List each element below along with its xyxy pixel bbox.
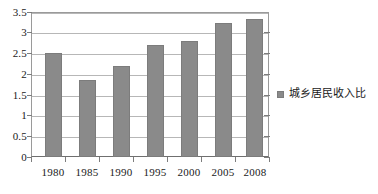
x-tick-label-2005: 2005 bbox=[212, 166, 235, 178]
y-tick-mark-right-1-5 bbox=[264, 95, 270, 96]
bars-layer bbox=[31, 12, 269, 157]
bar-2000[interactable] bbox=[181, 41, 198, 157]
x-tick-label-1995: 1995 bbox=[144, 166, 167, 178]
y-tick-mark-right-2 bbox=[264, 74, 270, 75]
x-tick-mark-5 bbox=[201, 157, 202, 162]
y-tick-mark-2-5 bbox=[27, 53, 32, 54]
x-tick-mark-2 bbox=[99, 157, 100, 162]
y-tick-label-0: 0 bbox=[0, 152, 27, 163]
x-tick-label-2000: 2000 bbox=[178, 166, 201, 178]
y-tick-label-2: 2 bbox=[0, 69, 27, 80]
legend-item-label: 城乡居民收入比 bbox=[289, 88, 366, 100]
y-tick-label-3: 3 bbox=[0, 27, 27, 38]
y-tick-label-2-5: 2.5 bbox=[0, 48, 27, 59]
bar-1995[interactable] bbox=[147, 45, 164, 157]
y-tick-label-3-5: 3.5 bbox=[0, 7, 27, 18]
bar-chart: 3.5 3 2.5 2 1.5 1 0.5 0 1980 1985 1990 1… bbox=[0, 0, 378, 194]
x-tick-mark-3 bbox=[133, 157, 134, 162]
x-tick-mark-4 bbox=[167, 157, 168, 162]
y-tick-label-1-5: 1.5 bbox=[0, 90, 27, 101]
x-tick-label-1990: 1990 bbox=[110, 166, 133, 178]
y-tick-mark-0-5 bbox=[27, 136, 32, 137]
y-tick-label-1: 1 bbox=[0, 110, 27, 121]
y-tick-mark-right-1 bbox=[264, 115, 270, 116]
bar-1980[interactable] bbox=[45, 53, 62, 157]
x-tick-mark-1 bbox=[65, 157, 66, 162]
x-tick-label-2008: 2008 bbox=[244, 166, 267, 178]
y-tick-mark-1-5 bbox=[27, 95, 32, 96]
y-tick-mark-3 bbox=[27, 32, 32, 33]
bar-1985[interactable] bbox=[79, 80, 96, 157]
y-tick-mark-1 bbox=[27, 115, 32, 116]
x-tick-label-1980: 1980 bbox=[42, 166, 65, 178]
y-tick-mark-right-3 bbox=[264, 32, 270, 33]
y-tick-mark-right-0-5 bbox=[264, 136, 270, 137]
bar-1990[interactable] bbox=[113, 66, 130, 157]
x-tick-mark-0 bbox=[31, 157, 32, 162]
y-tick-mark-2 bbox=[27, 74, 32, 75]
y-tick-mark-right-2-5 bbox=[264, 53, 270, 54]
y-tick-mark-3-5 bbox=[27, 12, 32, 13]
y-tick-label-0-5: 0.5 bbox=[0, 131, 27, 142]
bar-2008[interactable] bbox=[246, 19, 263, 157]
legend: 城乡居民收入比 bbox=[277, 88, 366, 100]
bar-2005[interactable] bbox=[215, 23, 232, 157]
legend-swatch-icon bbox=[277, 91, 284, 98]
x-tick-label-1985: 1985 bbox=[76, 166, 99, 178]
y-axis: 3.5 3 2.5 2 1.5 1 0.5 0 bbox=[0, 0, 27, 194]
x-tick-mark-7 bbox=[269, 157, 270, 162]
x-tick-mark-6 bbox=[235, 157, 236, 162]
